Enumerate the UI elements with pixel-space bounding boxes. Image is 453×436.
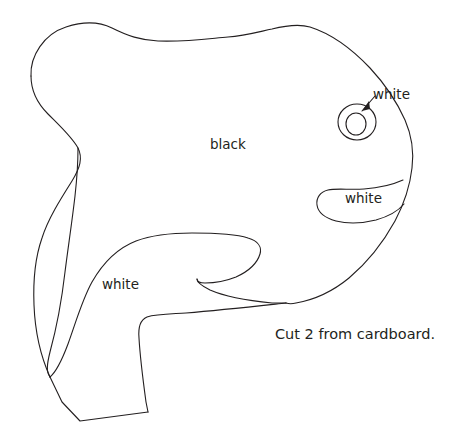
body-outline-path <box>31 23 413 304</box>
belly-curve-path <box>50 233 261 377</box>
region-label-white-belly: white <box>102 278 139 292</box>
left-outer-edge-path <box>31 76 80 377</box>
inner-back-curve-path <box>47 148 78 377</box>
pattern-drawing <box>0 0 453 436</box>
pattern-caption: Cut 2 from cardboard. <box>275 327 435 342</box>
region-label-white-eye: white <box>373 88 410 102</box>
body-outline-lower-path <box>139 303 286 412</box>
region-label-white-mouth: white <box>345 192 382 206</box>
region-label-black: black <box>210 138 246 152</box>
eye-inner-circle <box>346 113 366 135</box>
eye-pointer-arrowhead <box>362 101 370 111</box>
pattern-sheet: black white white white Cut 2 from cardb… <box>0 0 453 436</box>
foot-bottom-path <box>50 377 148 421</box>
